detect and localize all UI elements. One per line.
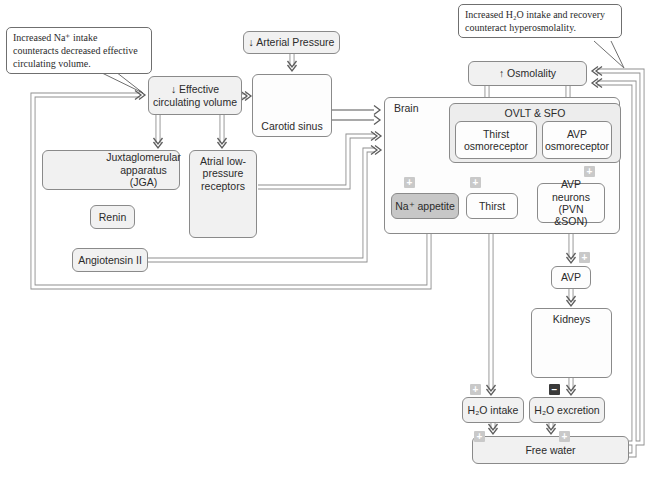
node-label: ↓ Effective circulating volume: [152, 83, 238, 108]
node-label: Na⁺ appetite: [395, 200, 455, 212]
node-carotid-sinus: Carotid sinus: [252, 74, 332, 137]
callout-h2o-intake: Increased H₂O intake and recovery counte…: [458, 4, 622, 38]
node-label: Free water: [525, 444, 575, 456]
node-label: AVP osmoreceptor: [545, 128, 609, 153]
node-label: ↓ Arterial Pressure: [249, 36, 335, 48]
node-label: Brain: [394, 102, 419, 114]
node-thirst: Thirst: [466, 193, 518, 219]
node-label: H₂O intake: [468, 404, 519, 416]
node-avp-osmoreceptor: AVP osmoreceptor: [542, 121, 612, 159]
plus-badge: +: [470, 384, 481, 395]
node-avp: AVP: [551, 266, 591, 289]
node-kidneys: Kidneys: [531, 308, 612, 378]
node-label: Carotid sinus: [261, 120, 322, 132]
minus-badge: −: [549, 384, 560, 395]
node-label: Renin: [99, 211, 126, 223]
node-label: H₂O excretion: [534, 404, 599, 416]
plus-badge: +: [559, 431, 570, 442]
node-label: Angiotensin II: [78, 254, 142, 266]
node-na-appetite: Na⁺ appetite: [391, 193, 459, 219]
node-free-water: Free water: [472, 436, 629, 464]
plus-badge: +: [470, 177, 481, 188]
pathway-diagram: Increased Na⁺ intake counteracts decreas…: [0, 0, 651, 486]
plus-badge: +: [579, 252, 590, 263]
node-label: ↑ Osmolality: [499, 67, 556, 79]
node-label: AVP neurons (PVN &SON): [541, 178, 601, 228]
node-arterial-pressure: ↓ Arterial Pressure: [243, 31, 340, 54]
node-jga: Juxtaglomerular apparatus (JGA): [42, 150, 180, 190]
node-osmolality: ↑ Osmolality: [468, 61, 587, 86]
node-label: OVLT & SFO: [450, 107, 620, 119]
node-label: Juxtaglomerular apparatus (JGA): [106, 151, 181, 188]
node-label: Atrial low-pressure receptors: [193, 155, 253, 192]
node-label: AVP: [561, 271, 581, 283]
node-angiotensin-ii: Angiotensin II: [72, 248, 148, 272]
node-h2o-excretion: H₂O excretion: [529, 397, 605, 423]
node-avp-neurons: AVP neurons (PVN &SON): [537, 183, 605, 223]
plus-badge: +: [404, 177, 415, 188]
callout-text: Increased H₂O intake and recovery counte…: [465, 9, 605, 33]
node-renin: Renin: [90, 205, 135, 229]
node-label: Thirst osmoreceptor: [459, 128, 533, 153]
node-thirst-osmoreceptor: Thirst osmoreceptor: [455, 121, 537, 159]
thin-arrows: [332, 110, 374, 120]
plus-badge: +: [474, 431, 485, 442]
callout-na-intake: Increased Na⁺ intake counteracts decreas…: [6, 27, 152, 74]
node-label: Kidneys: [553, 313, 590, 325]
node-label: Thirst: [479, 200, 505, 212]
node-h2o-intake: H₂O intake: [462, 397, 524, 423]
callout-text: Increased Na⁺ intake counteracts decreas…: [13, 32, 138, 69]
plus-badge: +: [584, 166, 595, 177]
node-atrial-receptors: Atrial low-pressure receptors: [189, 150, 257, 238]
node-effective-circulating-volume: ↓ Effective circulating volume: [148, 76, 242, 115]
